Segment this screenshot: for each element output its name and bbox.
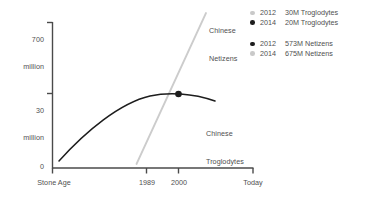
legend-marker-row-bottom: [248, 49, 257, 59]
legend-row: 2012 573M Netizens: [260, 39, 373, 49]
x-axis-label-1989: 1989: [131, 178, 163, 187]
legend-rows-netizens: 2012 573M Netizens 2014 675M Netizens: [260, 39, 373, 58]
y-axis-label-30-value: 30: [8, 106, 44, 115]
legend-dot-light-icon: [250, 11, 255, 16]
series-annotation-troglodytes-line1: Chinese: [206, 129, 268, 138]
chart-container: 700 million 30 million 0 Stone Age 1989 …: [0, 0, 373, 200]
legend-value: 675M Netizens: [285, 49, 373, 58]
legend-year: 2012: [260, 8, 285, 17]
legend-value: 30M Troglodytes: [285, 8, 373, 17]
x-axis-label-stone-age: Stone Age: [28, 178, 80, 187]
legend-value: 573M Netizens: [285, 39, 373, 48]
legend-dot-dark-icon: [250, 42, 255, 47]
legend-marker-row-top: [248, 8, 257, 18]
legend-year: 2012: [260, 39, 285, 48]
legend-value: 20M Troglodytes: [285, 18, 373, 27]
y-axis-label-700-value: 700: [8, 35, 44, 44]
legend-row: 2012 30M Troglodytes: [260, 8, 373, 18]
legend-year: 2014: [260, 18, 285, 27]
legend-markers-netizens: [248, 39, 257, 58]
y-axis-label-700-million: 700 million: [8, 16, 44, 90]
y-axis-label-30-million: 30 million: [8, 87, 44, 161]
legend-rows-troglodytes: 2012 30M Troglodytes 2014 20M Troglodyte…: [260, 8, 373, 27]
legend-group-netizens: 2012 573M Netizens 2014 675M Netizens: [240, 39, 373, 58]
legend-marker-row-bottom: [248, 18, 257, 28]
series-line-chinese-netizens: [137, 13, 207, 164]
y-axis-label-30-unit: million: [8, 133, 44, 142]
legend-year: 2014: [260, 49, 285, 58]
chart-legend: 2012 30M Troglodytes 2014 20M Troglodyte…: [240, 8, 373, 67]
legend-group-troglodytes: 2012 30M Troglodytes 2014 20M Troglodyte…: [240, 8, 373, 27]
y-axis-label-zero: 0: [28, 162, 44, 171]
legend-dot-dark-icon: [250, 20, 255, 25]
legend-markers-troglodytes: [248, 8, 257, 27]
legend-row: 2014 675M Netizens: [260, 49, 373, 59]
legend-row: 2014 20M Troglodytes: [260, 18, 373, 28]
series-curve-chinese-troglodytes: [59, 94, 215, 161]
legend-marker-row-top: [248, 39, 257, 49]
series-annotation-troglodytes-line2: Troglodytes: [206, 157, 268, 166]
x-axis-label-2000: 2000: [163, 178, 195, 187]
data-point-marker-2000: [175, 91, 182, 98]
y-axis-label-700-unit: million: [8, 62, 44, 71]
legend-dot-light-icon: [250, 51, 255, 56]
series-annotation-chinese-troglodytes: Chinese Troglodytes: [206, 110, 268, 185]
